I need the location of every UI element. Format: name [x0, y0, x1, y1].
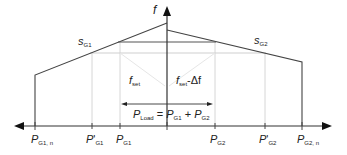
f-axis-label: f [153, 4, 156, 16]
arrow-left-icon [14, 122, 24, 130]
tick-label-pg1: PG1 [116, 134, 131, 146]
pload-equation: PLoad = PG1 + PG2 [133, 109, 210, 121]
arrow-right-icon [322, 122, 332, 130]
fset-delta-f-label: fset-Δf [176, 75, 201, 87]
arrow-up-icon [163, 6, 171, 16]
tick-label-pg2-n: PG2, n [297, 134, 319, 146]
s-g1-label: sG1 [78, 36, 92, 48]
tick-label-pg1-n: PG1, n [31, 134, 53, 146]
tick-label-p-prime-g2: P'G2 [259, 134, 276, 146]
arrowhead-left-icon [121, 102, 127, 106]
fset-label: fset [129, 75, 140, 87]
droop-diagram [0, 0, 347, 155]
guide-diag-left [120, 53, 165, 86]
tick-label-p-prime-g1: P'G1 [86, 134, 103, 146]
s-g2-label: sG2 [254, 35, 268, 47]
tick-label-pg2: PG2 [210, 134, 225, 146]
arrowhead-right-icon [207, 102, 213, 106]
